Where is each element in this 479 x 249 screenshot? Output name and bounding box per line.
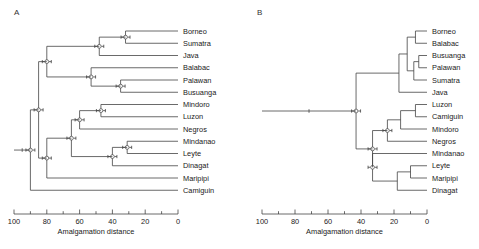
leaf-label: Balabac — [183, 63, 210, 72]
axis-tick-label: 80 — [291, 217, 299, 226]
leaf-label: Balabac — [432, 39, 459, 48]
leaf-label: Mindoro — [183, 100, 210, 109]
leaf-label: Camiguin — [432, 112, 463, 121]
axis-tick-label: 40 — [108, 217, 116, 226]
leaf-label: Mindoro — [432, 125, 459, 134]
axis-tick-label: 100 — [8, 217, 20, 226]
axis-title: Amalgamation distance — [58, 227, 135, 236]
leaf-label: Camiguin — [183, 186, 214, 195]
leaf-label: Borneo — [432, 27, 456, 36]
dendrogram-canvas: 100806040200Amalgamation distanceBorneoS… — [0, 0, 479, 249]
leaf-label: Java — [432, 88, 449, 97]
leaf-label: Maripipi — [432, 174, 458, 183]
leaf-label: Palawan — [183, 76, 211, 85]
leaf-label: Leyte — [183, 149, 201, 158]
leaf-label: Dinagat — [183, 161, 208, 170]
leaf-label: Java — [183, 51, 200, 60]
leaf-label: Maripipi — [183, 174, 209, 183]
axis-tick-label: 20 — [141, 217, 149, 226]
axis-b: 100806040200Amalgamation distance — [256, 210, 429, 237]
leaf-label: Borneo — [183, 27, 207, 36]
leaf-label: Leyte — [432, 161, 450, 170]
leaf-label: Busuanga — [183, 88, 217, 97]
leaf-label: Negros — [183, 125, 207, 134]
leaf-label: Palawan — [432, 63, 460, 72]
panel-b: 100806040200Amalgamation distanceBorneoB… — [256, 27, 466, 236]
axis-tick-label: 0 — [176, 217, 180, 226]
leaf-label: Mindanao — [432, 149, 464, 158]
axis-tick-label: 0 — [425, 217, 429, 226]
axis-tick-label: 60 — [324, 217, 332, 226]
leaf-label: Mindanao — [183, 137, 215, 146]
axis-tick-label: 60 — [75, 217, 83, 226]
leaf-label: Busuanga — [432, 51, 466, 60]
axis-tick-label: 40 — [357, 217, 365, 226]
panel-label-b: B — [257, 8, 263, 17]
panel-label-a: A — [14, 8, 20, 17]
leaf-label: Dinagat — [432, 186, 457, 195]
axis-title: Amalgamation distance — [306, 227, 383, 236]
panel-a: 100806040200Amalgamation distanceBorneoS… — [8, 27, 217, 236]
figure-dendrogram-pair: A B 100806040200Amalgamation distanceBor… — [0, 0, 479, 249]
leaf-label: Luzon — [432, 100, 452, 109]
axis-tick-label: 100 — [256, 217, 268, 226]
leaf-label: Negros — [432, 137, 456, 146]
leaf-label: Sumatra — [183, 39, 212, 48]
axis-tick-label: 20 — [390, 217, 398, 226]
axis-a: 100806040200Amalgamation distance — [8, 210, 180, 237]
axis-tick-label: 80 — [43, 217, 51, 226]
leaf-label: Luzon — [183, 112, 203, 121]
leaf-label: Sumatra — [432, 76, 461, 85]
